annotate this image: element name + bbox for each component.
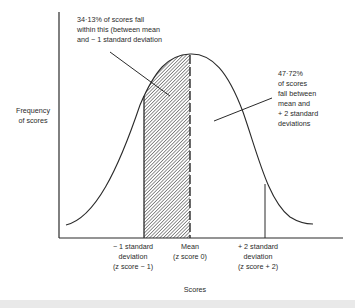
minus1-sd-label: − 1 standard deviation (z score − 1)	[102, 242, 164, 272]
marker-label-line: deviation	[102, 252, 164, 262]
right-annotation-line: + 2 standard	[278, 109, 318, 119]
y-axis-label-line: Frequency	[8, 106, 58, 116]
marker-label-line: − 1 standard	[102, 242, 164, 252]
right-annotation-line: deviations	[278, 119, 318, 129]
right-annotation-leader	[214, 98, 272, 121]
mean-label: Mean (z score 0)	[164, 242, 216, 262]
marker-label-line: + 2 standard	[227, 242, 289, 252]
right-annotation-line: 47·72%	[278, 69, 318, 79]
marker-label-line: (z score − 1)	[102, 262, 164, 272]
right-annotation: 47·72% of scores fall between mean and +…	[278, 69, 318, 129]
right-annotation-line: of scores	[278, 79, 318, 89]
left-annotation: 34·13% of scores fall within this (betwe…	[77, 15, 162, 45]
marker-label-line: deviation	[227, 252, 289, 262]
marker-label-line: (z score + 2)	[227, 262, 289, 272]
plus2-sd-label: + 2 standard deviation (z score + 2)	[227, 242, 289, 272]
right-annotation-line: mean and	[278, 99, 318, 109]
marker-label-line: (z score 0)	[164, 252, 216, 262]
left-annotation-line: within this (between mean	[77, 25, 162, 35]
y-axis-label: Frequency of scores	[8, 106, 58, 126]
left-annotation-line: and − 1 standard deviation	[77, 35, 162, 45]
marker-label-line: Mean	[164, 242, 216, 252]
left-annotation-line: 34·13% of scores fall	[77, 15, 162, 25]
y-axis-label-line: of scores	[8, 116, 58, 126]
bottom-strip	[0, 300, 355, 308]
x-axis-label: Scores	[170, 285, 220, 295]
right-annotation-line: fall between	[278, 89, 318, 99]
